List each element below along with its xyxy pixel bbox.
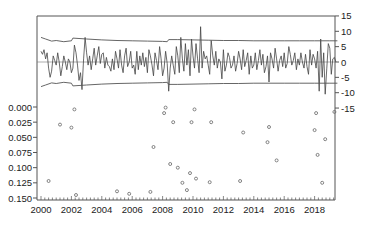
x-axis-label: 2006 xyxy=(122,204,143,215)
left-axis-label: 0.100 xyxy=(8,162,32,173)
probability-point xyxy=(324,138,327,141)
probability-point xyxy=(169,163,172,166)
x-axis-label: 2000 xyxy=(30,204,51,215)
probability-point xyxy=(47,180,50,183)
probability-point xyxy=(275,159,278,162)
right-axis-label: 10 xyxy=(341,26,352,37)
plot-frame xyxy=(37,16,335,200)
probability-point xyxy=(190,121,193,124)
probability-point xyxy=(181,181,184,184)
left-axis-label: 0.050 xyxy=(8,132,32,143)
probability-point xyxy=(152,146,155,149)
right-axis-label: -5 xyxy=(341,72,349,83)
probability-point xyxy=(316,153,319,156)
lower-band-line xyxy=(41,82,337,86)
probability-point xyxy=(128,192,131,195)
probability-point xyxy=(172,121,175,124)
left-axis-label: 0.000 xyxy=(8,102,32,113)
x-axis-label: 2016 xyxy=(274,204,295,215)
left-axis-label: 0.125 xyxy=(8,177,32,188)
probability-point xyxy=(266,141,269,144)
left-axis-label: 0.025 xyxy=(8,117,32,128)
probability-point xyxy=(193,108,196,111)
probability-point xyxy=(75,194,78,197)
probability-point xyxy=(176,166,179,169)
right-axis-label: 15 xyxy=(341,10,352,21)
series-layer xyxy=(37,27,337,197)
probability-point xyxy=(116,190,119,193)
probability-point xyxy=(149,190,152,193)
probability-point xyxy=(73,108,76,111)
probability-point xyxy=(208,181,211,184)
x-axis-label: 2012 xyxy=(213,204,234,215)
probability-point xyxy=(313,129,316,132)
x-axis-label: 2002 xyxy=(61,204,82,215)
x-axis-label: 2014 xyxy=(243,204,264,215)
probability-points xyxy=(47,106,336,196)
x-axis-label: 2018 xyxy=(304,204,325,215)
left-axis-label: 0.150 xyxy=(8,193,32,204)
probability-point xyxy=(189,172,192,175)
right-axis-label: 0 xyxy=(341,57,346,68)
x-axis-label: 2010 xyxy=(182,204,203,215)
x-axis-label: 2008 xyxy=(152,204,173,215)
residuals-chart: 151050-5-10-150.0000.0250.0500.0750.1000… xyxy=(0,0,366,226)
x-axis-label: 2004 xyxy=(91,204,112,215)
probability-point xyxy=(242,131,245,134)
right-axis-label: -10 xyxy=(341,87,355,98)
chart-container: 151050-5-10-150.0000.0250.0500.0750.1000… xyxy=(0,0,366,226)
probability-point xyxy=(163,112,166,115)
probability-point xyxy=(268,126,271,129)
probability-point xyxy=(210,121,213,124)
probability-point xyxy=(195,177,198,180)
probability-point xyxy=(59,123,62,126)
probability-point xyxy=(321,181,324,184)
right-axis-label: -15 xyxy=(341,103,355,114)
probability-point xyxy=(185,189,188,192)
probability-point xyxy=(164,106,167,109)
probability-point xyxy=(315,112,318,115)
probability-point xyxy=(70,126,73,129)
right-axis-label: 5 xyxy=(341,41,346,52)
left-axis-label: 0.075 xyxy=(8,147,32,158)
probability-point xyxy=(239,180,242,183)
